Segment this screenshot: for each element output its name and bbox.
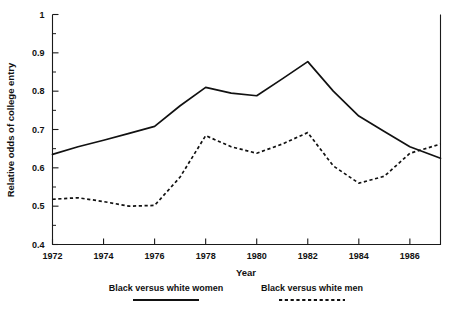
x-axis-title: Year	[236, 267, 256, 278]
x-tick-label-3: 1978	[196, 251, 216, 261]
x-tick-label-1: 1974	[94, 251, 114, 261]
x-tick-label-5: 1982	[298, 251, 318, 261]
x-tick-label-2: 1976	[145, 251, 165, 261]
y-tick-label-4: 0.8	[32, 86, 45, 96]
x-tick-label-4: 1980	[247, 251, 267, 261]
legend-label-1: Black versus white men	[261, 283, 363, 293]
y-tick-label-3: 0.7	[32, 125, 45, 135]
y-axis-ticks	[53, 15, 59, 245]
y-tick-label-0: 0.4	[32, 240, 45, 250]
y-tick-label-1: 0.5	[32, 201, 45, 211]
y-axis-tick-labels: 0.40.50.60.70.80.91	[32, 10, 45, 250]
series-line-women	[53, 62, 441, 159]
x-tick-label-7: 1986	[400, 251, 420, 261]
x-axis-ticks	[53, 239, 410, 245]
y-axis-title: Relative odds of college entry	[5, 62, 16, 197]
y-tick-label-6: 1	[39, 10, 44, 20]
legend-label-0: Black versus white women	[109, 283, 224, 293]
chart-container: 0.40.50.60.70.80.91 19721974197619781980…	[0, 0, 462, 315]
chart-legend: Black versus white womenBlack versus whi…	[109, 283, 363, 300]
relative-odds-line-chart: 0.40.50.60.70.80.91 19721974197619781980…	[0, 0, 462, 315]
x-tick-label-0: 1972	[42, 251, 62, 261]
x-axis-tick-labels: 19721974197619781980198219841986	[42, 251, 419, 261]
x-tick-label-6: 1984	[349, 251, 369, 261]
series-line-men	[53, 133, 441, 207]
y-tick-label-5: 0.9	[32, 48, 45, 58]
y-tick-label-2: 0.6	[32, 163, 45, 173]
data-series-group	[53, 62, 441, 207]
